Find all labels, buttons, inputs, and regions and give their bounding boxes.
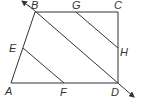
- segment-ef: [23, 48, 64, 83]
- label-c: C: [114, 0, 122, 11]
- label-e: E: [9, 42, 17, 54]
- label-h: H: [120, 46, 128, 58]
- segment-gh: [76, 12, 118, 48]
- label-a: A: [4, 85, 12, 97]
- quadrilateral-abcd: [11, 12, 118, 83]
- label-f: F: [60, 86, 68, 98]
- label-g: G: [72, 0, 81, 11]
- geometry-diagram: A B C D E F G H: [0, 0, 145, 99]
- line-bd-back: [22, 1, 30, 7]
- label-b: B: [31, 0, 38, 11]
- label-d: D: [111, 86, 119, 98]
